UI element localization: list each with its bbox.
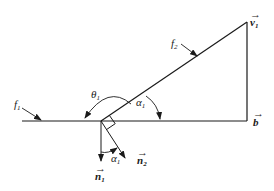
alpha1-upper-label: α1 (136, 96, 145, 110)
n2-vector-accent: → (137, 146, 148, 158)
v1-vector-accent: → (250, 8, 261, 20)
f1-pointer-arrow (22, 108, 41, 120)
f1-label: f1 (14, 98, 21, 112)
theta1-label: θ1 (91, 88, 100, 102)
alpha1-lower-label: α1 (111, 152, 120, 166)
diagram-canvas: f1 f2 v1 → b → θ1 α1 α1 n1 → n2 → (0, 0, 274, 191)
n1-vector-accent: → (95, 162, 106, 174)
f2-pointer-arrow (181, 44, 197, 56)
right-angle-marker (107, 115, 115, 129)
f2-label: f2 (171, 37, 178, 51)
b-vector-accent: → (253, 107, 264, 119)
alpha1-upper-arc-arrow (146, 96, 160, 119)
